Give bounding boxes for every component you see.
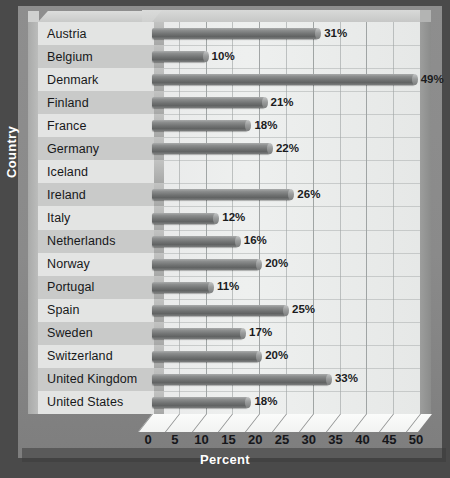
chart-root: AustriaBelgiumDenmarkFinlandFranceGerman…	[0, 0, 450, 478]
bar-end-cap	[203, 51, 209, 62]
bar-value-label: 16%	[244, 234, 267, 246]
category-label: Iceland	[38, 160, 154, 183]
gridline-horizontal	[152, 114, 420, 115]
bar-end-cap	[235, 236, 241, 247]
bar-value-label: 49%	[421, 73, 444, 85]
gridline-horizontal	[152, 391, 420, 392]
x-axis-tick-label: 35	[328, 432, 342, 447]
gridline-horizontal	[152, 160, 420, 161]
gridline-horizontal	[152, 230, 420, 231]
category-label: Switzerland	[38, 345, 154, 368]
gridline-horizontal	[152, 276, 420, 277]
y-axis-title: Country	[4, 126, 19, 178]
gridline-horizontal	[152, 368, 420, 369]
gridline-horizontal	[152, 45, 420, 46]
category-label: France	[38, 114, 154, 137]
bar	[152, 189, 291, 200]
x-axis-tick-label: 15	[221, 432, 235, 447]
bar	[152, 328, 243, 339]
x-axis-tick-label: 30	[302, 432, 316, 447]
bar-value-label: 31%	[324, 27, 347, 39]
category-label: Netherlands	[38, 230, 154, 253]
gridline-horizontal	[152, 322, 420, 323]
category-label: Spain	[38, 299, 154, 322]
x-axis-tick-label: 5	[171, 432, 178, 447]
gridline-horizontal	[152, 68, 420, 69]
category-label: Ireland	[38, 183, 154, 206]
bar	[152, 213, 216, 224]
gridline-horizontal	[152, 299, 420, 300]
bar	[152, 282, 211, 293]
bar-value-label: 17%	[249, 326, 272, 338]
x-axis-tick-label: 50	[409, 432, 423, 447]
bar	[152, 120, 248, 131]
gridline-horizontal	[152, 345, 420, 346]
bar-end-cap	[256, 259, 262, 270]
bar-value-label: 20%	[265, 349, 288, 361]
bar-end-cap	[240, 328, 246, 339]
gridline-horizontal	[152, 91, 420, 92]
bar-value-label: 12%	[222, 211, 245, 223]
category-label: Germany	[38, 137, 154, 160]
x-axis-tick-label: 20	[248, 432, 262, 447]
category-label: Denmark	[38, 68, 154, 91]
bar-value-label: 25%	[292, 303, 315, 315]
bar	[152, 397, 248, 408]
bar	[152, 143, 270, 154]
category-label: Norway	[38, 253, 154, 276]
bar	[152, 97, 265, 108]
gridline-horizontal	[152, 253, 420, 254]
bar-value-label: 22%	[276, 142, 299, 154]
bar-end-cap	[262, 97, 268, 108]
x-axis-tick-label: 40	[355, 432, 369, 447]
category-label: Belgium	[38, 45, 154, 68]
bar-value-label: 20%	[265, 257, 288, 269]
category-connector-tab	[154, 160, 164, 183]
x-axis-title: Percent	[0, 452, 450, 467]
bar-end-cap	[283, 305, 289, 316]
category-label: Portugal	[38, 276, 154, 299]
category-label: Italy	[38, 206, 154, 229]
bar-value-label: 18%	[254, 395, 277, 407]
bar	[152, 305, 286, 316]
category-label: Sweden	[38, 322, 154, 345]
bar-end-cap	[208, 282, 214, 293]
bar	[152, 74, 415, 85]
category-label: United Kingdom	[38, 368, 154, 391]
bar	[152, 259, 259, 270]
category-label: Austria	[38, 22, 154, 45]
category-label: United States	[38, 391, 154, 414]
gridline-horizontal	[152, 206, 420, 207]
bar	[152, 374, 329, 385]
gridline-horizontal	[152, 137, 420, 138]
x-axis-tick-label: 0	[144, 432, 151, 447]
bar-end-cap	[412, 74, 418, 85]
x-axis-band	[138, 414, 432, 432]
bar-value-label: 11%	[217, 280, 239, 292]
category-axis-panel: AustriaBelgiumDenmarkFinlandFranceGerman…	[38, 22, 154, 414]
gridline-horizontal	[152, 183, 420, 184]
bar-value-label: 18%	[254, 119, 277, 131]
x-axis-tick-label: 10	[194, 432, 208, 447]
bar	[152, 51, 206, 62]
bar-value-label: 21%	[271, 96, 294, 108]
bar	[152, 236, 238, 247]
bar	[152, 351, 259, 362]
bar-value-label: 33%	[335, 372, 358, 384]
bar-end-cap	[326, 374, 332, 385]
category-label: Finland	[38, 91, 154, 114]
plot-top-bevel	[152, 10, 430, 22]
bar-value-label: 26%	[297, 188, 320, 200]
bar-value-label: 10%	[212, 50, 235, 62]
bar	[152, 28, 318, 39]
x-axis-tick-label: 25	[275, 432, 289, 447]
x-axis-tick-label: 45	[382, 432, 396, 447]
